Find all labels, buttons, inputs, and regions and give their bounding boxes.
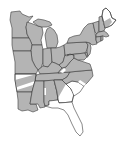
range-gap-alabama [45, 88, 47, 95]
state-iowa [12, 38, 32, 51]
range-map [0, 0, 126, 146]
state-rhode-island [101, 36, 103, 41]
eastern-us-map [0, 0, 126, 146]
